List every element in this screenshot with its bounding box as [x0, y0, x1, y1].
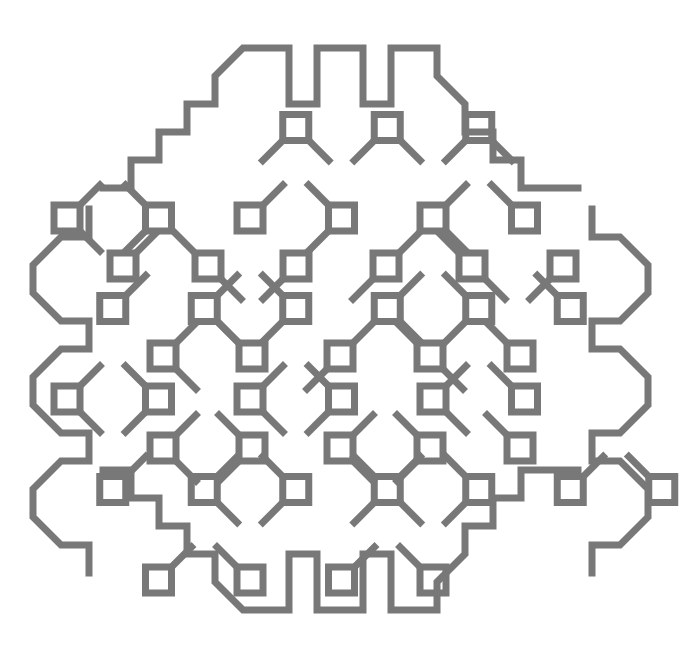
canvas-background: [0, 0, 681, 659]
geometric-pattern-artwork: [0, 0, 681, 659]
